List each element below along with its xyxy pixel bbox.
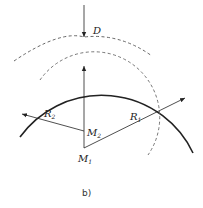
label-R2: R2 [43,108,56,120]
radius-R1-arrow [84,98,185,148]
outer-dashed-arc [14,36,152,61]
label-M1: M1 [77,153,92,165]
figure-caption: b) [82,188,91,198]
label-D: D [92,25,101,36]
label-M2: M2 [86,127,101,139]
outer-solid-arc [20,95,193,153]
diagram-canvas: D R2 R1 M2 M1 b) [0,0,203,208]
label-R1: R1 [129,111,141,123]
